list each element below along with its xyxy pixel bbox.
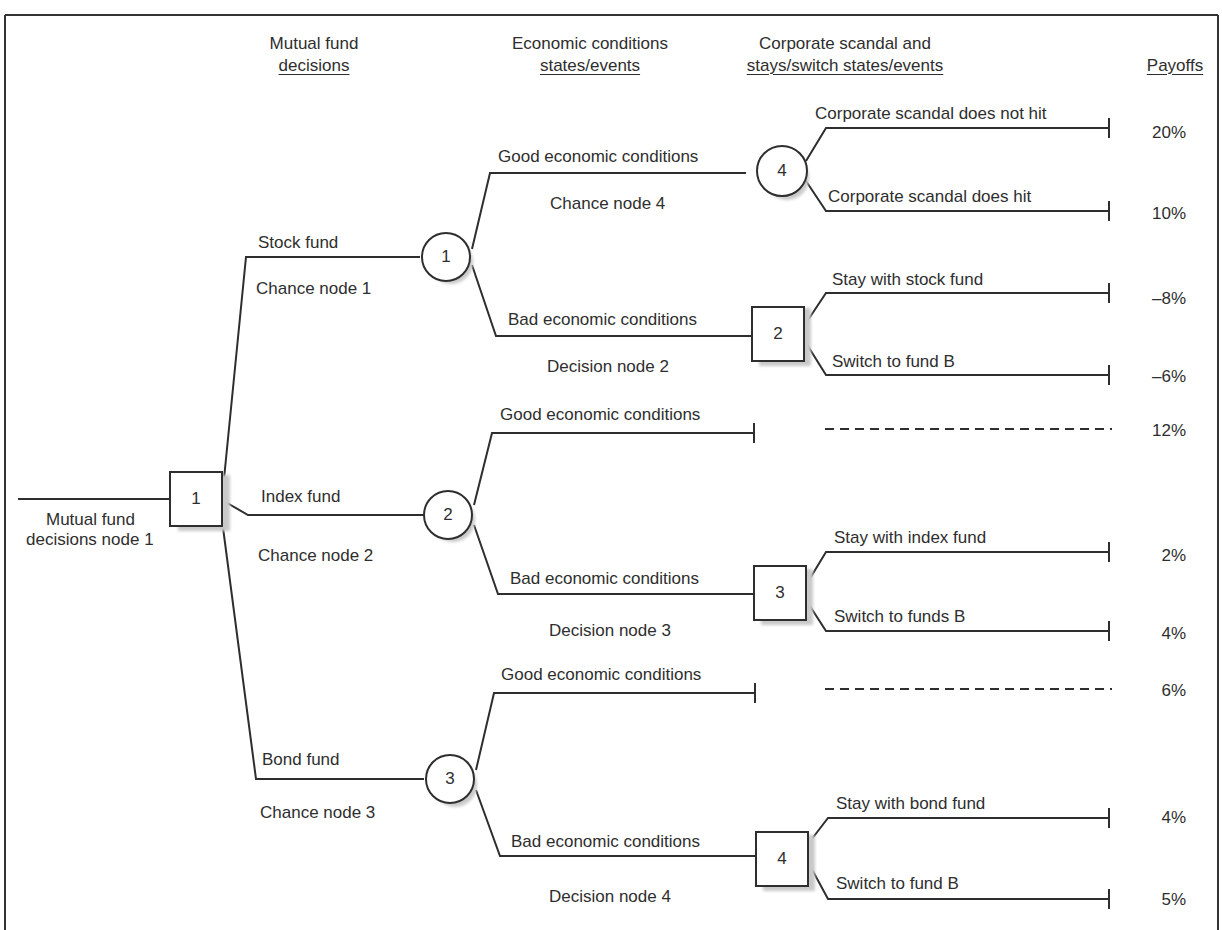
header-text: Mutual fund (248, 33, 380, 55)
branch-label-bad-econ-3: Bad economic conditions (511, 832, 700, 852)
header-text-underlined: stays/switch states/events (730, 55, 960, 77)
payoff-value: 12% (1126, 421, 1186, 441)
root-label-line1: Mutual fund (46, 510, 135, 530)
node-label-chance-4: Chance node 4 (550, 194, 665, 214)
branch-good-econ-3 (476, 693, 755, 770)
header-text-underlined: states/events (480, 55, 700, 77)
outcome-label: Corporate scandal does not hit (815, 104, 1047, 124)
node-label-decision-2: Decision node 2 (547, 357, 669, 377)
node-label-chance-3: Chance node 3 (260, 803, 375, 823)
decision-node-3-number: 3 (765, 583, 795, 603)
outcome-label: Switch to funds B (834, 607, 965, 627)
outcome-label: Stay with bond fund (836, 794, 985, 814)
header-text: Corporate scandal and (730, 33, 960, 55)
payoff-value: –8% (1126, 289, 1186, 309)
payoff-value: 10% (1126, 204, 1186, 224)
header-mutual-fund-decisions: Mutual fund decisions (248, 33, 380, 77)
payoff-value: 2% (1126, 546, 1186, 566)
decision-node-1-number: 1 (181, 489, 211, 509)
header-text-underlined: Payoffs (1135, 55, 1215, 77)
branch-scandal-not-hit (806, 128, 1109, 161)
outcome-label: Switch to fund B (832, 352, 955, 372)
branch-label-index-fund: Index fund (261, 487, 340, 507)
branch-stay-index (806, 552, 1109, 585)
branch-label-bad-econ-2: Bad economic conditions (510, 569, 699, 589)
branch-label-bond-fund: Bond fund (262, 750, 340, 770)
chance-node-1-number: 1 (431, 247, 461, 267)
decision-node-2-number: 2 (763, 324, 793, 344)
chance-node-4-number: 4 (767, 161, 797, 181)
branch-label-good-econ-1: Good economic conditions (498, 147, 698, 167)
node-label-decision-3: Decision node 3 (549, 621, 671, 641)
tree-graphics (0, 0, 1222, 930)
outcome-label: Switch to fund B (836, 874, 959, 894)
chance-node-3-number: 3 (435, 769, 465, 789)
branch-label-bad-econ-1: Bad economic conditions (508, 310, 697, 330)
payoff-value: 5% (1126, 890, 1186, 910)
header-payoffs: Payoffs (1135, 55, 1215, 77)
header-text-underlined: decisions (248, 55, 380, 77)
node-label-chance-1: Chance node 1 (256, 279, 371, 299)
payoff-value: 20% (1126, 123, 1186, 143)
root-label-line2: decisions node 1 (26, 530, 154, 550)
outcome-label: Corporate scandal does hit (828, 187, 1031, 207)
decision-node-4-number: 4 (767, 849, 797, 869)
branch-stay-stock (806, 293, 1109, 323)
chance-node-2-number: 2 (433, 505, 463, 525)
outcome-label: Stay with index fund (834, 528, 986, 548)
decision-tree-figure: Mutual fund decisions Economic condition… (0, 0, 1222, 930)
node-label-decision-4: Decision node 4 (549, 887, 671, 907)
header-corporate-scandal: Corporate scandal and stays/switch state… (730, 33, 960, 77)
branch-label-good-econ-2: Good economic conditions (500, 405, 700, 425)
payoff-value: –6% (1126, 367, 1186, 387)
branch-label-good-econ-3: Good economic conditions (501, 665, 701, 685)
payoff-value: 6% (1126, 681, 1186, 701)
payoff-value: 4% (1126, 624, 1186, 644)
node-label-chance-2: Chance node 2 (258, 546, 373, 566)
outcome-label: Stay with stock fund (832, 270, 983, 290)
branch-good-econ-2 (474, 433, 754, 505)
branch-stay-bond (808, 818, 1109, 844)
header-text: Economic conditions (480, 33, 700, 55)
header-economic-conditions: Economic conditions states/events (480, 33, 700, 77)
branch-label-stock-fund: Stock fund (258, 233, 338, 253)
payoff-value: 4% (1126, 808, 1186, 828)
